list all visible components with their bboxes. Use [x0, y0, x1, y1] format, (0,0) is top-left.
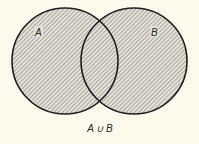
- diagram-caption: A ∪ B: [86, 123, 113, 134]
- union-shading: [12, 8, 187, 114]
- set-b-label: B: [151, 27, 158, 38]
- set-a-label: A: [34, 27, 42, 38]
- venn-diagram: A B A ∪ B: [0, 0, 199, 144]
